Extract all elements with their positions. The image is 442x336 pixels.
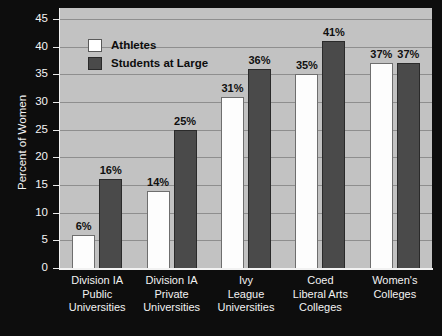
bar-chart-figure: 051015202530354045 Percent of Women 6%16… — [0, 0, 442, 336]
bar-value-label: 16% — [91, 164, 130, 176]
x-axis-category-label: Women's Colleges — [358, 274, 432, 301]
bar-value-label: 6% — [64, 220, 103, 232]
gridline — [60, 19, 432, 20]
y-tick-label: 35 — [26, 67, 48, 79]
y-tick-label: 5 — [26, 233, 48, 245]
bar-students-at-large — [174, 130, 197, 268]
y-tick-mark — [53, 47, 59, 48]
y-tick-mark — [53, 185, 59, 186]
legend-swatch-athletes-icon — [88, 39, 102, 52]
y-tick-label: 45 — [26, 12, 48, 24]
chart-legend: Athletes Students at Large — [88, 37, 208, 73]
legend-swatch-students-icon — [88, 57, 102, 70]
y-tick-label: 40 — [26, 40, 48, 52]
y-tick-mark — [53, 240, 59, 241]
x-axis-baseline — [60, 268, 433, 270]
legend-label-students-at-large: Students at Large — [111, 57, 208, 69]
legend-label-athletes: Athletes — [111, 39, 156, 51]
y-tick-label: 25 — [26, 123, 48, 135]
bar-athletes — [221, 97, 244, 268]
y-tick-label: 15 — [26, 178, 48, 190]
bar-students-at-large — [248, 69, 271, 268]
y-tick-label: 20 — [26, 150, 48, 162]
bar-athletes — [147, 191, 170, 268]
x-axis-category-label: Ivy League Universities — [209, 274, 283, 315]
bar-value-label: 36% — [240, 54, 279, 66]
bar-value-label: 31% — [213, 82, 252, 94]
y-tick-label: 30 — [26, 95, 48, 107]
y-tick-mark — [53, 102, 59, 103]
x-axis-category-label: Coed Liberal Arts Colleges — [283, 274, 357, 315]
x-axis-category-label: Division IA Private Universities — [134, 274, 208, 315]
y-axis-label: Percent of Women — [16, 95, 28, 190]
bar-value-label: 25% — [166, 115, 205, 127]
y-tick-mark — [53, 157, 59, 158]
x-axis-category-label: Division IA Public Universities — [60, 274, 134, 315]
bar-students-at-large — [397, 63, 420, 268]
bar-value-label: 35% — [287, 59, 326, 71]
bar-value-label: 41% — [314, 26, 353, 38]
legend-item-students-at-large: Students at Large — [88, 55, 208, 71]
bar-value-label: 37% — [389, 48, 428, 60]
y-tick-label: 10 — [26, 206, 48, 218]
bar-athletes — [295, 74, 318, 268]
bar-athletes — [370, 63, 393, 268]
legend-item-athletes: Athletes — [88, 37, 208, 53]
bar-athletes — [72, 235, 95, 268]
y-tick-label: 0 — [26, 261, 48, 273]
y-tick-mark — [53, 213, 59, 214]
bar-students-at-large — [322, 41, 345, 268]
y-tick-mark — [53, 74, 59, 75]
y-tick-mark — [53, 268, 59, 269]
y-tick-mark — [53, 19, 59, 20]
y-tick-mark — [53, 130, 59, 131]
bar-value-label: 14% — [139, 176, 178, 188]
